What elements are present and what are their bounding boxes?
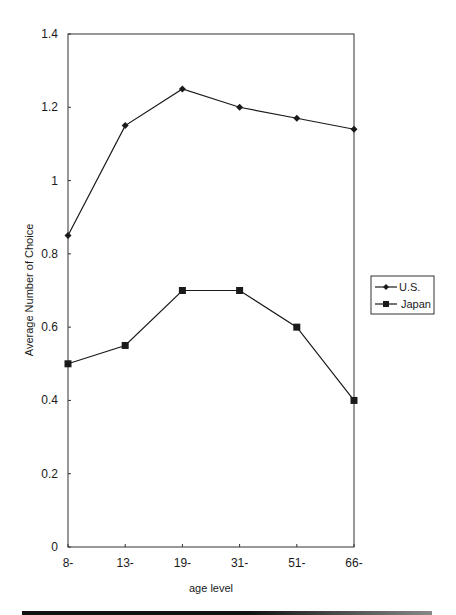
- y-tick-label: 0.4: [41, 393, 58, 407]
- y-tick-label: 0: [51, 540, 58, 554]
- diamond-marker-icon: [65, 232, 72, 239]
- y-tick-label: 0.8: [41, 247, 58, 261]
- diamond-marker-icon: [236, 104, 243, 111]
- x-axis: 8-13-19-31-51-66-: [63, 544, 363, 570]
- y-tick-label: 0.6: [41, 320, 58, 334]
- x-tick-label: 19-: [174, 556, 191, 570]
- square-marker-icon: [293, 324, 300, 331]
- y-axis-title: Average Number of Choice: [23, 224, 35, 356]
- x-tick-label: 13-: [117, 556, 134, 570]
- diamond-marker-icon: [293, 115, 300, 122]
- diamond-marker-icon: [351, 126, 358, 133]
- y-tick-label: 0.2: [41, 467, 58, 481]
- bottom-divider: [22, 611, 432, 615]
- square-marker-icon: [122, 342, 129, 349]
- square-marker-icon: [236, 287, 243, 294]
- line-chart: 00.20.40.60.811.21.4 8-13-19-31-51-66- A…: [0, 0, 456, 615]
- series-line: [68, 89, 354, 236]
- square-marker-icon: [65, 360, 72, 367]
- x-tick-label: 8-: [63, 556, 74, 570]
- x-tick-label: 51-: [288, 556, 305, 570]
- x-tick-label: 31-: [231, 556, 248, 570]
- series-line: [68, 291, 354, 401]
- legend: U.S. Japan: [371, 276, 434, 314]
- square-marker-icon: [383, 301, 389, 307]
- diamond-marker-icon: [179, 85, 186, 92]
- square-marker-icon: [351, 397, 358, 404]
- series-lines: [65, 85, 358, 403]
- y-tick-label: 1: [51, 174, 58, 188]
- x-tick-label: 66-: [345, 556, 362, 570]
- legend-japan: Japan: [401, 298, 431, 310]
- y-tick-label: 1.4: [41, 27, 58, 41]
- square-marker-icon: [179, 287, 186, 294]
- y-axis: 00.20.40.60.811.21.4: [41, 27, 71, 554]
- x-axis-title: age level: [189, 582, 233, 594]
- diamond-marker-icon: [122, 122, 129, 129]
- y-tick-label: 1.2: [41, 100, 58, 114]
- legend-us: U.S.: [399, 281, 420, 293]
